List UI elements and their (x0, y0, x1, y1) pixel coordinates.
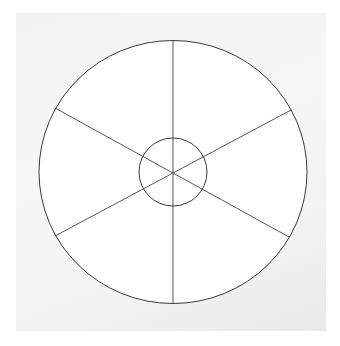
wheel-drawing (0, 0, 340, 346)
